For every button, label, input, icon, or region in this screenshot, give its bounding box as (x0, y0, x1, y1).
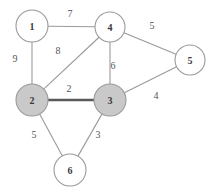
graph-node-4[interactable]: 4 (95, 12, 125, 42)
graph-node-2[interactable]: 2 (16, 84, 48, 116)
graph-edge-2-4 (44, 37, 99, 89)
graph-node-3[interactable]: 3 (94, 84, 126, 116)
graph-node-label-4: 4 (108, 22, 113, 33)
edge-weight-label-1-2: 9 (13, 53, 18, 64)
edge-weight-label-3-4: 6 (111, 60, 116, 71)
graph-node-label-6: 6 (68, 165, 73, 176)
edge-weight-label-3-5: 4 (154, 90, 159, 101)
edge-weight-label-3-6: 3 (96, 129, 101, 140)
graph-node-6[interactable]: 6 (54, 154, 86, 186)
graph-diagram-canvas: 798652453 145236 (0, 0, 213, 189)
graph-node-label-3: 3 (108, 95, 113, 106)
edge-weight-label-2-3: 2 (67, 83, 72, 94)
graph-edge-3-5 (124, 67, 176, 93)
graph-node-label-1: 1 (30, 21, 35, 32)
graph-edge-4-5 (124, 33, 176, 55)
edge-weight-label-2-6: 5 (32, 129, 37, 140)
graph-edge-1-4 (48, 26, 95, 27)
graph-node-5[interactable]: 5 (175, 45, 205, 75)
graph-svg: 798652453 145236 (0, 0, 213, 189)
edge-weight-label-4-5: 5 (150, 20, 155, 31)
edge-weight-label-2-4: 8 (56, 45, 61, 56)
nodes-layer: 145236 (16, 10, 205, 186)
edge-weight-label-1-4: 7 (68, 8, 73, 19)
graph-node-1[interactable]: 1 (16, 10, 48, 42)
graph-edge-2-6 (40, 114, 63, 156)
graph-node-label-5: 5 (188, 55, 193, 66)
graph-node-label-2: 2 (30, 95, 35, 106)
